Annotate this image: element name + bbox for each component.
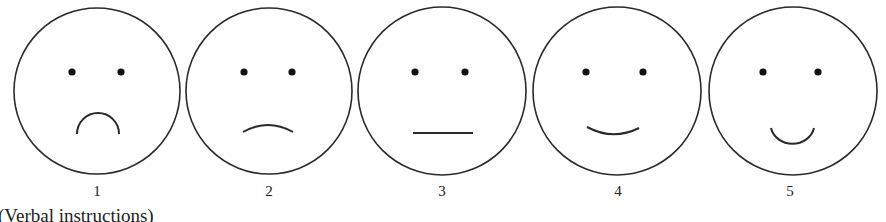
- face-label-1: 1: [82, 183, 112, 200]
- face-label-3: 3: [427, 183, 457, 200]
- face-label-2: 2: [254, 183, 284, 200]
- face-label-5: 5: [775, 183, 805, 200]
- face-very-sad-icon: [14, 8, 180, 174]
- face-neutral-icon: [358, 7, 526, 175]
- caption: (Verbal instructions): [0, 205, 154, 222]
- face-very-happy-icon: [709, 7, 877, 175]
- smiley-rating-scale: 1 2 3 4 5 (Verbal instructions): [0, 0, 886, 222]
- face-sad-icon: [186, 8, 352, 174]
- face-happy-icon: [533, 7, 701, 175]
- face-label-4: 4: [603, 183, 633, 200]
